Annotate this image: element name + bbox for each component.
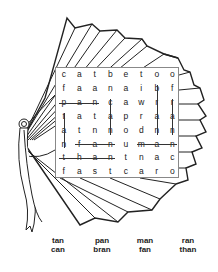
grid-cell[interactable]: a — [72, 165, 88, 179]
grid-cell[interactable]: t — [134, 68, 150, 82]
grid-cell[interactable]: t — [118, 151, 134, 165]
grid-cell[interactable]: a — [72, 82, 88, 96]
grid-cell[interactable]: r — [134, 110, 150, 124]
word-list-item: ran — [168, 236, 208, 245]
grid-cell[interactable]: a — [87, 82, 103, 96]
grid-cell[interactable]: o — [118, 124, 134, 138]
grid-cell[interactable]: n — [103, 82, 119, 96]
grid-cell[interactable]: b — [103, 68, 119, 82]
grid-cell[interactable]: o — [165, 68, 181, 82]
grid-cell[interactable]: o — [165, 165, 181, 179]
grid-cell[interactable]: a — [118, 96, 134, 110]
grid-cell[interactable]: f — [56, 82, 72, 96]
grid-cell[interactable]: r — [149, 165, 165, 179]
word-list-item: than — [168, 245, 208, 254]
found-word-strike — [59, 103, 99, 104]
grid-cell[interactable]: e — [118, 68, 134, 82]
grid-cell[interactable]: s — [87, 165, 103, 179]
grid-cell[interactable]: f — [56, 165, 72, 179]
word-list-item: man — [125, 236, 165, 245]
word-list-item: pan — [82, 236, 122, 245]
grid-cell[interactable]: a — [72, 68, 88, 82]
word-search-grid: catbetoofaanaibfpancawrrtatapraaatnnodnn… — [55, 67, 179, 178]
found-word-strike — [59, 158, 115, 159]
found-word-strike — [64, 113, 65, 149]
grid-cell[interactable]: c — [165, 151, 181, 165]
grid-cell[interactable]: t — [72, 124, 88, 138]
grid-cell[interactable]: a — [149, 151, 165, 165]
grid-cell[interactable]: c — [56, 68, 72, 82]
word-list-item: tan — [38, 236, 78, 245]
word-list-item: can — [38, 245, 78, 254]
found-word-strike — [172, 99, 173, 135]
grid-cell[interactable]: u — [118, 138, 134, 152]
grid-cell[interactable]: t — [103, 165, 119, 179]
grid-cell[interactable]: a — [134, 165, 150, 179]
tassel-icon — [19, 119, 42, 232]
grid-cell[interactable]: n — [134, 151, 150, 165]
grid-cell[interactable]: t — [87, 68, 103, 82]
found-word-strike — [110, 99, 111, 135]
found-word-strike — [75, 144, 115, 145]
word-list-item: bran — [82, 245, 122, 254]
grid-cell[interactable]: n — [87, 124, 103, 138]
grid-cell[interactable]: t — [87, 110, 103, 124]
grid-cell[interactable]: o — [149, 68, 165, 82]
grid-cell[interactable]: f — [165, 82, 181, 96]
found-word-strike — [137, 144, 177, 145]
found-word-strike — [157, 85, 158, 135]
grid-cell[interactable]: c — [118, 165, 134, 179]
grid-cell[interactable]: w — [134, 96, 150, 110]
grid-cell[interactable]: i — [134, 82, 150, 96]
grid-cell[interactable]: d — [134, 124, 150, 138]
grid-cell[interactable]: a — [118, 82, 134, 96]
grid-cell[interactable]: a — [72, 110, 88, 124]
word-list-item: fan — [125, 245, 165, 254]
grid-cell[interactable]: p — [118, 110, 134, 124]
